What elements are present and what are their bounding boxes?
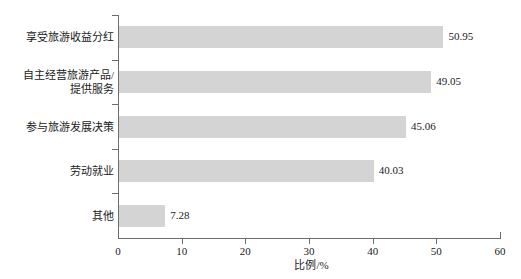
x-axis-tick-label: 30 (294, 245, 324, 258)
category-label: 其他 (92, 209, 114, 223)
bar-value-label: 50.95 (448, 30, 473, 43)
bar-chart: 50.9549.0545.0640.037.28 享受旅游收益分红自主经营旅游产… (0, 0, 521, 279)
x-axis-end-cap (500, 232, 501, 239)
y-axis-tick (112, 193, 118, 194)
x-axis-tick (182, 239, 183, 244)
bar-value-label: 40.03 (379, 164, 404, 177)
y-axis-tick (112, 60, 118, 61)
x-axis-tick-label: 60 (485, 245, 515, 258)
x-axis-tick (436, 239, 437, 244)
x-axis-title-text: 比例/% (294, 259, 328, 271)
x-axis-tick-label: 0 (103, 245, 133, 258)
category-label: 自主经营旅游产品/ 提供服务 (23, 68, 114, 96)
x-axis-tick-label: 50 (421, 245, 451, 258)
x-axis-tick (245, 239, 246, 244)
y-axis-tick (112, 104, 118, 105)
bar-value-label: 45.06 (411, 120, 436, 133)
y-axis-tick (112, 15, 118, 16)
y-axis-tick (112, 149, 118, 150)
x-axis-tick-label: 10 (167, 245, 197, 258)
bar-value-label: 49.05 (436, 75, 461, 88)
bar (119, 160, 374, 182)
x-axis-tick (309, 239, 310, 244)
bar (119, 71, 431, 93)
category-label: 劳动就业 (70, 164, 114, 178)
x-axis-tick-label: 20 (230, 245, 260, 258)
category-label: 享受旅游收益分红 (26, 30, 114, 44)
x-axis-tick (373, 239, 374, 244)
bar (119, 26, 443, 48)
x-axis-tick-label: 40 (358, 245, 388, 258)
bar (119, 205, 165, 227)
bar (119, 116, 406, 138)
x-axis-title: 比例/% (0, 259, 521, 272)
bar-value-label: 7.28 (170, 209, 189, 222)
category-label: 参与旅游发展决策 (26, 120, 114, 134)
